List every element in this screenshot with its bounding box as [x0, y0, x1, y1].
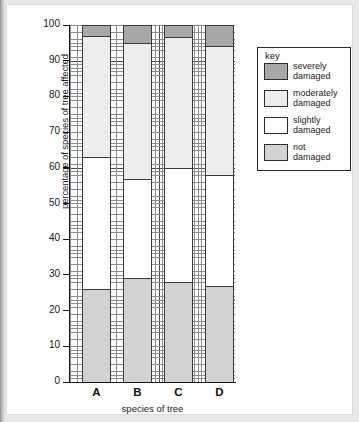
y-axis-tick-label: 40	[49, 232, 60, 243]
y-axis-line	[69, 25, 70, 383]
legend-swatch	[264, 117, 288, 134]
y-axis-tick-label: 60	[49, 161, 60, 172]
bar-segment-c-severely-damaged	[165, 25, 192, 37]
page-background: percentage of species of tree affected 1…	[0, 0, 359, 422]
y-axis-tick-label: 50	[49, 197, 60, 208]
legend-item-severely-damaged: severely damaged	[264, 62, 350, 88]
bar-segment-a-not-damaged	[83, 289, 110, 382]
x-axis-tick-label-c: C	[164, 386, 193, 398]
bar-segment-a-severely-damaged	[83, 25, 110, 36]
legend-swatch	[264, 63, 288, 80]
bar-segment-b-not-damaged	[124, 278, 151, 382]
bar-segment-d-moderately-damaged	[206, 46, 233, 175]
y-axis-tick-60: 60	[63, 167, 69, 168]
legend-swatch	[264, 144, 288, 161]
y-axis-tick-label: 20	[49, 304, 60, 315]
y-axis-tick-80: 80	[63, 96, 69, 97]
x-axis-tick-label-a: A	[82, 386, 111, 398]
legend-label: severely damaged	[293, 62, 331, 81]
x-axis-line	[69, 382, 236, 383]
bar-segment-c-not-damaged	[165, 282, 192, 382]
y-axis-tick-30: 30	[63, 274, 69, 275]
bar-a	[82, 25, 111, 382]
bar-segment-b-severely-damaged	[124, 25, 151, 43]
legend-item-slightly-damaged: slightly damaged	[264, 116, 350, 142]
legend-label: not damaged	[293, 143, 331, 162]
y-axis-tick-20: 20	[63, 310, 69, 311]
bar-segment-a-moderately-damaged	[83, 36, 110, 157]
y-axis-tick-label: 70	[49, 125, 60, 136]
y-axis-tick-40: 40	[63, 239, 69, 240]
x-axis-title: species of tree	[69, 403, 236, 414]
bar-d	[205, 25, 234, 382]
y-axis-tick-label: 0	[54, 375, 60, 386]
bar-segment-d-not-damaged	[206, 286, 233, 382]
bar-segment-d-severely-damaged	[206, 25, 233, 46]
legend-item-moderately-damaged: moderately damaged	[264, 89, 350, 115]
y-axis-tick-label: 10	[49, 339, 60, 350]
page-left-edge-shadow	[0, 0, 5, 422]
y-axis-tick-100: 100	[63, 25, 69, 26]
bar-b	[123, 25, 152, 382]
legend-item-not-damaged: not damaged	[264, 143, 350, 169]
bar-segment-b-slightly-damaged	[124, 179, 151, 279]
bar-segment-a-slightly-damaged	[83, 157, 110, 289]
chart-sheet: percentage of species of tree affected 1…	[7, 5, 352, 414]
legend-title: key	[265, 50, 280, 61]
y-axis-tick-50: 50	[63, 203, 69, 204]
bar-segment-d-slightly-damaged	[206, 175, 233, 286]
chart-legend: key severely damagedmoderately damagedsl…	[257, 47, 351, 171]
x-axis-tick-label-b: B	[123, 386, 152, 398]
y-axis-tick-10: 10	[63, 346, 69, 347]
stacked-bar-chart: percentage of species of tree affected 1…	[28, 14, 344, 397]
y-axis-tick-label: 90	[49, 54, 60, 65]
y-axis-tick-90: 90	[63, 60, 69, 61]
x-axis-tick-label-d: D	[205, 386, 234, 398]
y-axis-tick-label: 80	[49, 89, 60, 100]
bar-c	[164, 25, 193, 382]
bar-segment-c-moderately-damaged	[165, 37, 192, 167]
legend-swatch	[264, 90, 288, 107]
y-axis-tick-label: 30	[49, 268, 60, 279]
y-axis-tick-0: 0	[63, 382, 69, 383]
legend-label: slightly damaged	[293, 116, 331, 135]
bar-segment-c-slightly-damaged	[165, 168, 192, 282]
legend-label: moderately damaged	[293, 89, 338, 108]
y-axis-tick-label: 100	[43, 18, 60, 29]
y-axis-tick-70: 70	[63, 132, 69, 133]
bar-segment-b-moderately-damaged	[124, 43, 151, 179]
